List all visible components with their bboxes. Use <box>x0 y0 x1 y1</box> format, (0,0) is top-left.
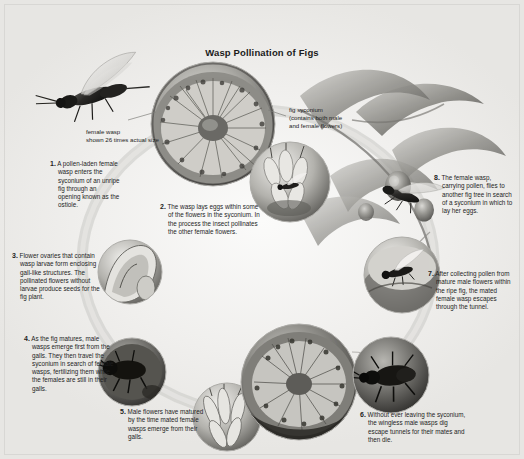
step-2: 2. The wasp lays eggs within some of the… <box>160 203 264 236</box>
step-4-number: 4. <box>24 335 30 342</box>
label-fig-syconium: fig syconium (contains both male and fem… <box>289 106 375 130</box>
label-female-wasp-scale: female wasp shown 26 times actual size <box>86 128 164 144</box>
step-1-text: A pollen-laden female wasp enters the sy… <box>57 160 119 208</box>
step-3-number: 3. <box>12 252 18 259</box>
step-8-text: The female wasp, carrying pollen, flies … <box>441 174 512 214</box>
step-4-text: As the fig matures, male wasps emerge fi… <box>31 335 113 392</box>
wasp-pollination-figure: Wasp Pollination of Figs female wasp sho… <box>0 0 524 459</box>
figure-title: Wasp Pollination of Figs <box>0 47 524 58</box>
step-8-number: 8. <box>434 174 440 181</box>
step-3: 3. Flower ovaries that contain wasp larv… <box>12 252 102 302</box>
step-7-number: 7. <box>428 270 434 277</box>
label-line-2: shown 26 times actual size <box>86 136 164 144</box>
step-4: 4. As the fig matures, male wasps emerge… <box>24 335 116 393</box>
step-6-number: 6. <box>360 411 366 418</box>
step-6-text: Without ever leaving the syconium, the w… <box>368 411 466 443</box>
label-line-2: (contains both male <box>289 114 375 122</box>
step-2-text: The wasp lays eggs within some of the fl… <box>167 203 259 235</box>
step-1: 1. A pollen-laden female wasp enters the… <box>50 160 120 210</box>
label-line-1: fig syconium <box>289 106 375 114</box>
label-line-1: female wasp <box>86 128 164 136</box>
step-2-number: 2. <box>160 203 166 210</box>
step-7: 7. After collecting pollen from mature m… <box>428 270 512 311</box>
step-5-text: Male flowers have matured by the time ma… <box>128 408 204 440</box>
step-7-text: After collecting pollen from mature male… <box>435 270 510 310</box>
step-6: 6. Without ever leaving the syconium, th… <box>360 411 466 444</box>
step-1-number: 1. <box>50 160 56 167</box>
step-5: 5. Male flowers have matured by the time… <box>120 408 204 441</box>
step-8: 8. The female wasp, carrying pollen, fli… <box>434 174 514 215</box>
step-3-text: Flower ovaries that contain wasp larvae … <box>20 252 100 300</box>
label-line-3: and female flowers) <box>289 122 375 130</box>
step-5-number: 5. <box>120 408 126 415</box>
